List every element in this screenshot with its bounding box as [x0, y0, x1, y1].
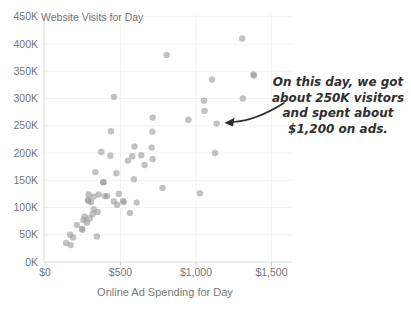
data-point[interactable] [240, 95, 246, 101]
x-tick-label: $1,000 [180, 266, 212, 278]
y-tick-label: 150K [13, 174, 38, 186]
data-point[interactable] [239, 35, 245, 41]
annotation-line: On this day, we got [273, 75, 405, 89]
data-point[interactable] [88, 199, 94, 205]
data-point[interactable] [212, 150, 218, 156]
x-axis-title: Online Ad Spending for Day [97, 286, 233, 298]
data-point[interactable] [104, 193, 110, 199]
data-point[interactable] [159, 185, 165, 191]
data-point[interactable] [197, 190, 203, 196]
data-point[interactable] [214, 120, 220, 126]
annotation-text: On this day, we gotabout 250K visitorsan… [272, 75, 405, 136]
data-point[interactable] [149, 129, 155, 135]
data-point[interactable] [131, 176, 137, 182]
data-point[interactable] [134, 199, 140, 205]
annotation-arrow [225, 103, 285, 127]
data-point[interactable] [107, 153, 113, 159]
data-points [63, 35, 257, 248]
y-tick-label: 100K [13, 201, 38, 213]
chart-title: Website Visits for Day [41, 11, 144, 23]
data-point[interactable] [116, 191, 122, 197]
data-point[interactable] [150, 114, 156, 120]
data-point[interactable] [68, 242, 74, 248]
annotation-line: and spent about [283, 106, 395, 120]
annotation-line: $1,200 on ads. [288, 122, 388, 136]
data-point[interactable] [121, 199, 127, 205]
data-point[interactable] [92, 169, 98, 175]
data-point[interactable] [113, 170, 119, 176]
data-point[interactable] [138, 152, 144, 158]
y-tick-label: 300K [13, 92, 38, 104]
gridlines [44, 14, 292, 262]
data-point[interactable] [150, 156, 156, 162]
data-point[interactable] [79, 227, 85, 233]
data-point[interactable] [185, 117, 191, 123]
data-point[interactable] [201, 108, 207, 114]
data-point[interactable] [94, 233, 100, 239]
data-point[interactable] [111, 94, 117, 100]
annotation-line: about 250K visitors [272, 91, 404, 105]
y-tick-label: 250K [13, 119, 38, 131]
y-axis-tick-labels: 0K50K100K150K200K250K300K350K400K450K [13, 10, 38, 267]
y-tick-label: 450K [13, 10, 38, 22]
data-point[interactable] [74, 222, 80, 228]
data-point[interactable] [164, 52, 170, 58]
data-point[interactable] [209, 76, 215, 82]
data-point[interactable] [142, 162, 148, 168]
scatter-chart: 0K50K100K150K200K250K300K350K400K450K $0… [0, 0, 411, 310]
x-tick-label: $0 [39, 266, 51, 278]
data-point[interactable] [98, 149, 104, 155]
y-tick-label: 350K [13, 65, 38, 77]
x-axis-tick-labels: $0$500$1,000$1,500 [39, 266, 288, 278]
y-tick-label: 0K [25, 256, 38, 268]
data-point[interactable] [95, 191, 101, 197]
data-point[interactable] [201, 98, 207, 104]
data-point[interactable] [100, 179, 106, 185]
x-tick-label: $1,500 [255, 266, 287, 278]
data-point[interactable] [148, 144, 154, 150]
data-point[interactable] [129, 153, 135, 159]
data-point[interactable] [70, 234, 76, 240]
x-tick-label: $500 [109, 266, 133, 278]
y-tick-label: 400K [13, 38, 38, 50]
data-point[interactable] [250, 71, 256, 77]
y-tick-label: 50K [19, 228, 38, 240]
y-tick-label: 200K [13, 147, 38, 159]
data-point[interactable] [108, 128, 114, 134]
data-point[interactable] [131, 143, 137, 149]
data-point[interactable] [127, 210, 133, 216]
chart-canvas: 0K50K100K150K200K250K300K350K400K450K $0… [0, 0, 411, 310]
data-point[interactable] [95, 209, 101, 215]
data-point[interactable] [114, 202, 120, 208]
